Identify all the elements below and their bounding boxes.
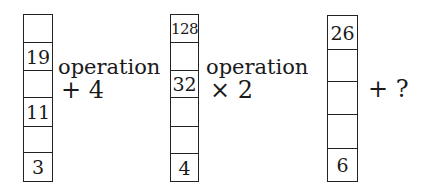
operation-2-label: operation — [206, 57, 308, 78]
column-2-cell-2 — [171, 43, 198, 71]
column-2-cell-5 — [171, 127, 198, 154]
column-3-cell-1: 26 — [328, 16, 357, 50]
number-column-2: 128 32 4 — [170, 14, 199, 182]
column-2-cell-3: 32 — [171, 71, 198, 98]
operation-3-value: + ? — [368, 77, 409, 101]
column-1-cell-6: 3 — [24, 153, 52, 181]
number-column-1: 19 11 3 — [23, 14, 53, 182]
column-1-cell-3 — [24, 71, 52, 98]
column-3-cell-4 — [328, 115, 357, 149]
column-1-cell-2: 19 — [24, 43, 52, 71]
column-3-cell-3 — [328, 82, 357, 115]
operation-1-label: operation — [58, 57, 160, 78]
column-1-cell-1 — [24, 15, 52, 43]
number-column-3: 26 6 — [327, 15, 358, 182]
column-2-cell-1: 128 — [171, 15, 198, 43]
column-3-cell-2 — [328, 50, 357, 82]
operation-2-value: × 2 — [210, 78, 253, 102]
column-3-cell-5: 6 — [328, 149, 357, 181]
column-1-cell-4: 11 — [24, 98, 52, 127]
column-1-cell-5 — [24, 127, 52, 153]
column-2-cell-4 — [171, 98, 198, 127]
column-2-cell-6: 4 — [171, 154, 198, 181]
operation-1-value: + 4 — [61, 78, 104, 102]
